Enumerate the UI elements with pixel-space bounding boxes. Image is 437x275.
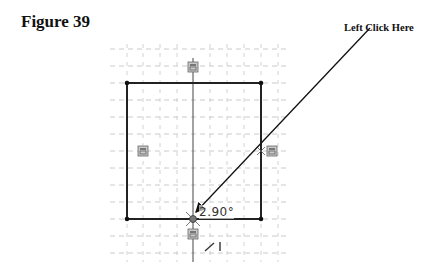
callout-arrow [196, 28, 370, 212]
constraint-icon-left[interactable] [138, 146, 148, 156]
sketch-grid [110, 49, 290, 253]
pen-cursor-icon [205, 242, 220, 251]
angle-readout: 2.90° [199, 205, 234, 219]
constraint-icon-right[interactable] [267, 146, 277, 156]
constraint-icon-bottom[interactable] [188, 229, 198, 239]
sketch-canvas[interactable] [0, 0, 437, 275]
constraint-icon-top[interactable] [188, 62, 198, 72]
